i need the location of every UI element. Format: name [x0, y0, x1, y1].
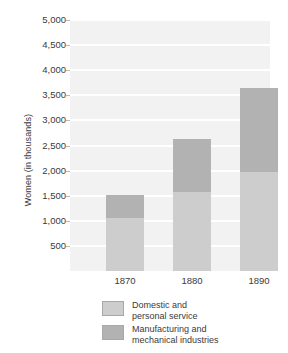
x-axis-tick-label-1890: 1890 [240, 275, 278, 286]
gridline [70, 19, 270, 21]
chart-legend: Domestic andpersonal serviceManufacturin… [102, 300, 288, 348]
legend-label-line1: Manufacturing and [132, 324, 219, 335]
bar-stack-1880[interactable] [173, 139, 211, 271]
legend-swatch-domestic [102, 301, 124, 316]
y-axis-tick-label: 2,000 [20, 166, 66, 176]
legend-label-line2: personal service [132, 311, 198, 322]
y-axis-tick-label: 4,500 [20, 40, 66, 50]
x-axis-tick-label-1870: 1870 [106, 275, 144, 286]
legend-label: Domestic andpersonal service [132, 300, 198, 321]
y-axis-tick-label: 3,500 [20, 90, 66, 100]
legend-label: Manufacturing andmechanical industries [132, 324, 219, 345]
bar-stack-1870[interactable] [106, 195, 144, 271]
bar-segment-domestic[interactable] [173, 192, 211, 271]
legend-swatch-manufacturing [102, 325, 124, 340]
y-axis-tick-label: 500 [20, 241, 66, 251]
bar-segment-manufacturing[interactable] [240, 88, 278, 172]
y-axis-tick-label: 1,000 [20, 216, 66, 226]
y-axis-tick-label: 4,000 [20, 65, 66, 75]
gridline [70, 44, 270, 46]
stacked-bar-chart: Women (in thousands) 5001,0001,5002,0002… [0, 0, 288, 353]
y-axis-tick-label: 3,000 [20, 115, 66, 125]
bar-segment-manufacturing[interactable] [173, 139, 211, 192]
bar-segment-domestic[interactable] [240, 172, 278, 271]
x-axis-tick-label-1880: 1880 [173, 275, 211, 286]
bar-segment-manufacturing[interactable] [106, 195, 144, 218]
bar-stack-1890[interactable] [240, 88, 278, 271]
gridline [70, 69, 270, 71]
legend-item[interactable]: Domestic andpersonal service [102, 300, 288, 321]
legend-label-line2: mechanical industries [132, 335, 219, 346]
plot-area [70, 20, 270, 271]
legend-item[interactable]: Manufacturing andmechanical industries [102, 324, 288, 345]
y-axis-tick-label: 1,500 [20, 191, 66, 201]
legend-label-line1: Domestic and [132, 300, 198, 311]
y-axis-tick-label: 2,500 [20, 141, 66, 151]
y-axis-tick-label: 5,000 [20, 15, 66, 25]
bar-segment-domestic[interactable] [106, 218, 144, 271]
